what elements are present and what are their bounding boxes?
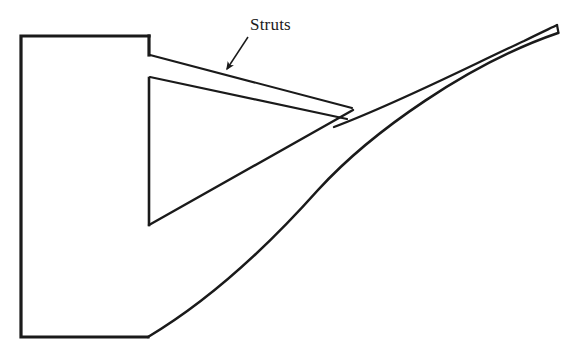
background <box>0 0 576 355</box>
nozzle-tip-cap <box>557 25 559 33</box>
struts-label: Struts <box>250 15 291 34</box>
diagram-canvas: Struts <box>0 0 576 355</box>
struts-diagram: Struts <box>0 0 576 355</box>
